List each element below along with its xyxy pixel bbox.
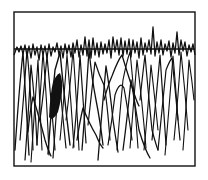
illustration-canvas <box>0 0 208 180</box>
trace-illustration <box>0 0 208 180</box>
